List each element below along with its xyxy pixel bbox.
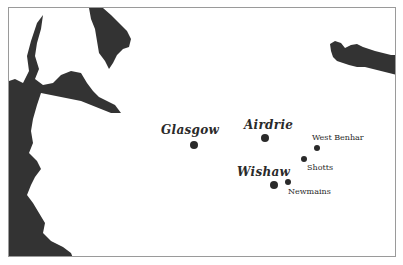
town-marker[interactable] bbox=[190, 141, 198, 149]
town-marker[interactable] bbox=[314, 145, 320, 151]
loch bbox=[89, 8, 131, 69]
town-label: Shotts bbox=[307, 163, 333, 172]
town-label: Glasgow bbox=[161, 123, 219, 137]
town-label: West Benhar bbox=[312, 133, 364, 142]
town-marker[interactable] bbox=[301, 156, 307, 162]
eastern-loch bbox=[330, 41, 396, 75]
town-label: Newmains bbox=[288, 187, 331, 196]
town-label: Airdrie bbox=[244, 118, 293, 132]
town-marker[interactable] bbox=[261, 134, 269, 142]
town-label: Wishaw bbox=[237, 165, 290, 179]
map-frame: Glasgow Airdrie Wishaw West Benhar Shott… bbox=[8, 7, 396, 257]
town-marker[interactable] bbox=[285, 179, 291, 185]
town-marker[interactable] bbox=[270, 181, 278, 189]
